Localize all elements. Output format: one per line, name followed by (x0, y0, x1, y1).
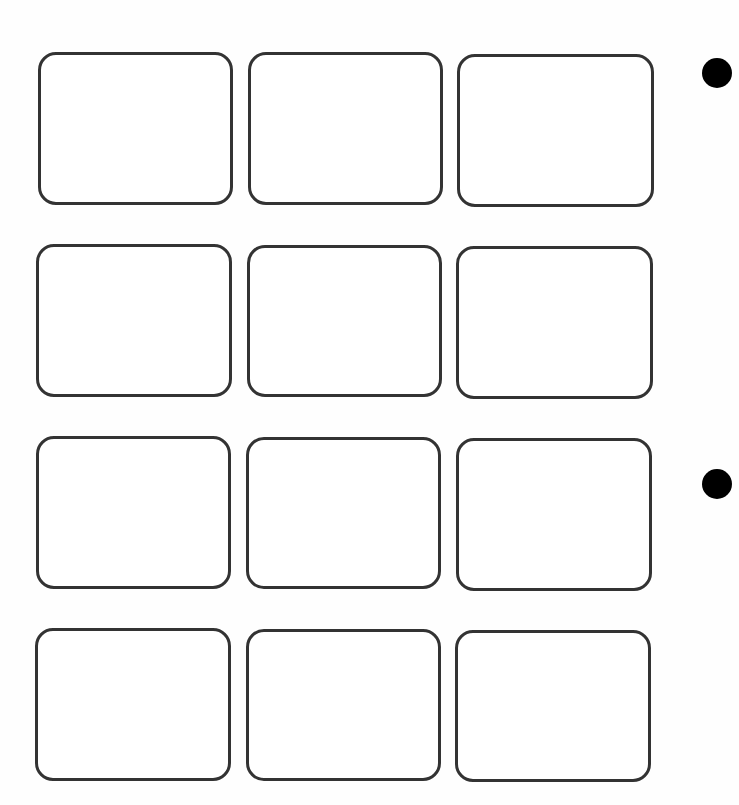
card-slot-r4-c1 (35, 628, 231, 781)
card-slot-r1-c3 (457, 54, 654, 207)
slot-sheet (0, 0, 739, 805)
binder-hole-icon (702, 58, 732, 88)
card-slot-r4-c3 (455, 630, 651, 782)
card-slot-r2-c2 (247, 245, 442, 397)
card-slot-r1-c2 (248, 52, 443, 205)
binder-hole-icon (702, 469, 732, 499)
card-slot-r3-c1 (36, 436, 231, 589)
card-slot-r2-c1 (36, 244, 232, 397)
card-slot-r2-c3 (456, 246, 653, 399)
card-slot-r3-c2 (246, 437, 441, 589)
card-slot-r1-c1 (38, 52, 233, 205)
card-slot-r4-c2 (246, 629, 441, 781)
card-slot-r3-c3 (456, 438, 652, 591)
